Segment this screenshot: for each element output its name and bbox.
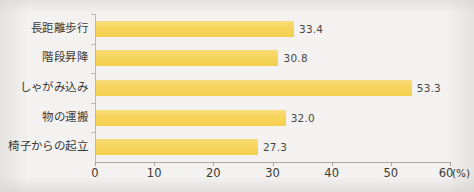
category-label: 物の運搬 (42, 112, 88, 124)
bar (96, 50, 278, 66)
bar (96, 110, 286, 126)
bar-row: 椅子からの起立 27.3 (95, 132, 450, 162)
category-label: 長距離歩行 (31, 23, 88, 35)
category-label: しゃがみ込み (20, 82, 88, 94)
x-axis-tick-label: 10 (147, 168, 162, 180)
y-axis-tick (91, 73, 95, 74)
bar-value-label: 33.4 (299, 24, 323, 35)
category-label: 階段昇降 (42, 53, 88, 65)
bar-value-label: 32.0 (291, 112, 315, 123)
y-axis-tick (91, 132, 95, 133)
category-label: 椅子からの起立 (8, 141, 88, 153)
bar-row: しゃがみ込み 53.3 (95, 73, 450, 103)
y-axis-tick (91, 14, 95, 15)
x-axis-tick-label: 50 (383, 168, 398, 180)
bar-chart: 長距離歩行 33.4 階段昇降 30.8 しゃがみ込み 53.3 物の運搬 32… (0, 0, 474, 192)
bar (96, 139, 258, 155)
bar-row: 長距離歩行 33.4 (95, 14, 450, 44)
x-axis-tick-label: 40 (324, 168, 339, 180)
y-axis-tick (91, 44, 95, 45)
bar-value-label: 27.3 (263, 142, 287, 153)
x-axis-tick-label: 0 (91, 168, 98, 180)
bar-row: 階段昇降 30.8 (95, 44, 450, 74)
bar-value-label: 30.8 (284, 53, 308, 64)
bar-value-label: 53.3 (417, 83, 441, 94)
bar (96, 21, 294, 37)
x-axis-unit-label: (%) (452, 168, 470, 179)
y-axis-tick (91, 103, 95, 104)
bar (96, 80, 412, 96)
plot-area: 長距離歩行 33.4 階段昇降 30.8 しゃがみ込み 53.3 物の運搬 32… (95, 14, 450, 162)
x-axis-tick-label: 20 (206, 168, 221, 180)
bar-row: 物の運搬 32.0 (95, 103, 450, 133)
x-axis-tick-label: 30 (265, 168, 280, 180)
